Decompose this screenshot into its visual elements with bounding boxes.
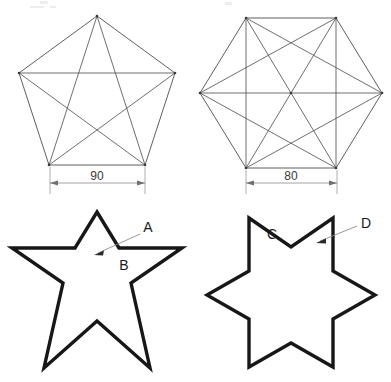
dimension-value-right: 80 bbox=[284, 169, 298, 183]
dimension-arrow-right bbox=[137, 181, 145, 186]
pentagon-vertex bbox=[48, 164, 51, 167]
pentagon-diagonal-3 bbox=[49, 73, 175, 165]
pentagon-diagonals bbox=[19, 16, 175, 165]
pentagon-diagonal-1 bbox=[97, 16, 145, 165]
callout-d-label: D bbox=[361, 215, 371, 231]
pentagon-diagonal-2 bbox=[49, 16, 97, 165]
hexagon-vertex bbox=[245, 17, 248, 20]
pentagon-dimension-90: 90 bbox=[50, 167, 145, 194]
figure-six-point-star: C D bbox=[207, 215, 375, 367]
hexagon-vertex bbox=[381, 92, 384, 95]
callout-c: C bbox=[267, 226, 277, 242]
six-point-star-outline bbox=[207, 218, 375, 367]
pentagon-vertex bbox=[144, 164, 147, 167]
dimension-arrow-right bbox=[329, 181, 337, 186]
pentagon-vertex bbox=[18, 72, 21, 75]
pentagon-diagonal-5 bbox=[19, 73, 145, 165]
pentagon-vertex bbox=[174, 72, 177, 75]
hexagon-vertex bbox=[199, 92, 202, 95]
pentagon-vertex bbox=[96, 15, 99, 18]
hexagon-center bbox=[290, 92, 293, 95]
callout-b-label: B bbox=[119, 257, 128, 273]
dimension-arrow-left bbox=[50, 181, 58, 186]
hexagon-vertex bbox=[335, 17, 338, 20]
figure-pentagon-with-diagonals: 90 bbox=[18, 15, 177, 194]
hexagon-vertex bbox=[245, 167, 248, 170]
technical-drawing-sheet: 90 bbox=[0, 0, 391, 382]
hexagon-dimension-80: 80 bbox=[246, 169, 337, 194]
callout-c-label: C bbox=[267, 226, 277, 242]
dimension-value-left: 90 bbox=[90, 169, 104, 183]
hexagon-diagonal-short-3 bbox=[246, 93, 382, 168]
dimension-arrow-left bbox=[246, 181, 254, 186]
figure-five-point-star: A B bbox=[12, 212, 182, 368]
figure-hexagon-with-diagonals: 80 bbox=[199, 17, 384, 194]
five-point-star-outline bbox=[12, 212, 182, 368]
drawing-canvas: 90 bbox=[0, 0, 391, 382]
callout-b: B bbox=[119, 257, 128, 273]
hexagon-vertex bbox=[335, 167, 338, 170]
hexagon-diagonal-short-1 bbox=[246, 18, 382, 93]
scan-artifact-marks bbox=[30, 1, 232, 8]
hexagon-diagonal-short-4 bbox=[200, 93, 336, 168]
pentagon-vertex-dots bbox=[18, 15, 177, 167]
callout-a-label: A bbox=[143, 219, 153, 235]
hexagon-diagonal-short-2 bbox=[200, 18, 336, 93]
